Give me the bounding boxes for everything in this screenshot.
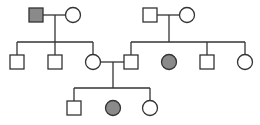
individual-II-2-male <box>48 55 62 69</box>
individual-II-6-male <box>200 55 214 69</box>
individual-II-4-male <box>124 55 138 69</box>
individual-I-3-male <box>143 8 157 22</box>
individual-III-3-female <box>143 101 158 116</box>
individual-II-1-male <box>10 55 24 69</box>
individual-I-4-female <box>180 8 195 23</box>
individual-III-1-male <box>67 101 81 115</box>
individual-I-1-affected-male <box>29 8 43 22</box>
individual-II-7-female <box>238 55 253 70</box>
individual-I-2-female <box>66 8 81 23</box>
individual-II-3-female <box>86 55 101 70</box>
individual-III-2-affected-female <box>106 101 121 116</box>
individual-II-5-affected-female <box>162 55 177 70</box>
pedigree-diagram <box>0 0 260 125</box>
